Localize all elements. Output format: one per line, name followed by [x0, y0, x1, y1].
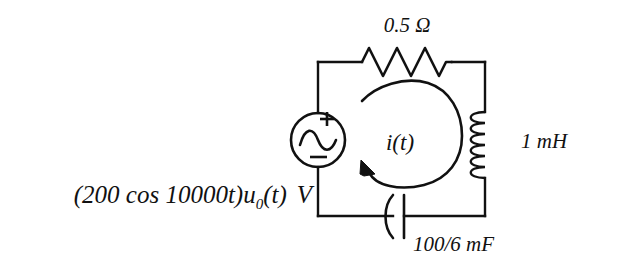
resistor-symbol	[362, 48, 452, 76]
sine-wave-icon	[300, 131, 336, 150]
source-expression-label: (200 cos 10000t)u0(t)V	[30, 181, 343, 212]
inductor-symbol	[471, 112, 485, 178]
ac-voltage-source	[291, 112, 345, 167]
circuit-schematic-canvas: 0.5 Ω 1 mH 100/6 mF i(t) (200 cos 10000t…	[0, 0, 617, 264]
circuit-diagram-figure: 0.5 Ω 1 mH 100/6 mF i(t) (200 cos 10000t…	[0, 0, 617, 264]
source-unit-label: V	[297, 181, 315, 208]
capacitor-label: 100/6 mF	[413, 232, 494, 256]
source-expression-main: (200 cos 10000t)u	[74, 181, 256, 209]
resistor-label: 0.5 Ω	[384, 13, 431, 37]
current-label: i(t)	[386, 130, 414, 155]
source-expression-tail: (t)	[263, 181, 287, 209]
current-arrow-head	[360, 160, 375, 176]
inductor-label: 1 mH	[521, 129, 569, 153]
